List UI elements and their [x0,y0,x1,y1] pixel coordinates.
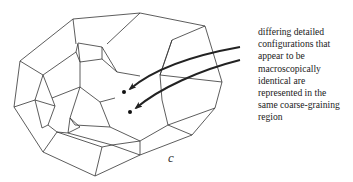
outer-boundary [14,13,222,176]
arrow-to-point-2 [136,60,240,108]
region-label: c [168,150,174,166]
caption-line: identical are [258,75,353,87]
arrow-to-point-1 [130,47,240,89]
caption-line: macroscopically [258,63,353,75]
configuration-point-2 [128,110,132,114]
caption-line: appear to be [258,50,353,62]
phase-space-partition [14,13,222,176]
configuration-point-1 [122,90,126,94]
caption-line: differing detailed [258,26,353,38]
caption-line: same coarse-graining [258,99,353,111]
caption-line: configurations that [258,38,353,50]
caption-line: represented in the [258,87,353,99]
caption-line: region [258,111,353,123]
points [122,90,132,114]
annotation-caption: differing detailed configurations that a… [258,26,353,124]
